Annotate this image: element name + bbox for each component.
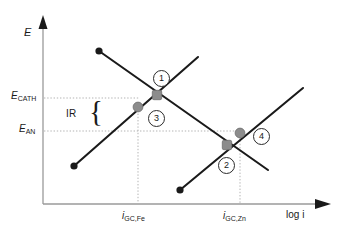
x-tick-i-gc-zn-subscript: GC,Zn [225,215,246,222]
badge-4: 4 [253,128,270,145]
cathodic-line-start-dot [95,47,102,54]
y-tick-e-an-subscript: AN [26,128,36,135]
node-3-marker [133,102,143,112]
polarisation-lines-group [74,51,303,190]
node-2-marker [222,140,231,149]
x-tick-label-i-gc-fe: iGC,Fe [122,211,145,221]
x-axis-arrowhead [315,199,331,209]
ir-brace: { [89,97,103,126]
y-tick-e-cath-subscript: CATH [18,95,37,102]
ir-drop-label: IR [66,109,76,119]
diagram-canvas [0,0,347,236]
zn-anodic-line-start-dot [176,186,183,193]
x-axis-label: log i [286,210,304,220]
node-1-marker [152,90,161,99]
y-axis-arrowhead [39,15,48,29]
y-tick-e-cath-symbol: E [11,90,18,101]
badge-1: 1 [153,70,170,87]
fe-anodic-line-start-dot [70,162,77,169]
badge-2: 2 [218,157,235,174]
y-tick-label-e-cath: ECATH [11,91,36,101]
x-tick-label-i-gc-zn: iGC,Zn [223,211,246,221]
x-axis-label-prefix: log [286,209,302,220]
evans-diagram-figure: E ECATH EAN IR { iGC,Fe iGC,Zn log i 1 3… [0,0,347,236]
x-axis-label-symbol: i [302,209,304,220]
node-4-marker [235,128,245,138]
x-tick-i-gc-fe-subscript: GC,Fe [124,215,145,222]
y-tick-e-an-symbol: E [19,123,26,134]
zn-anodic-line [180,88,303,190]
y-axis-label: E [24,27,31,38]
y-tick-label-e-an: EAN [19,124,35,134]
badge-3: 3 [148,110,165,127]
